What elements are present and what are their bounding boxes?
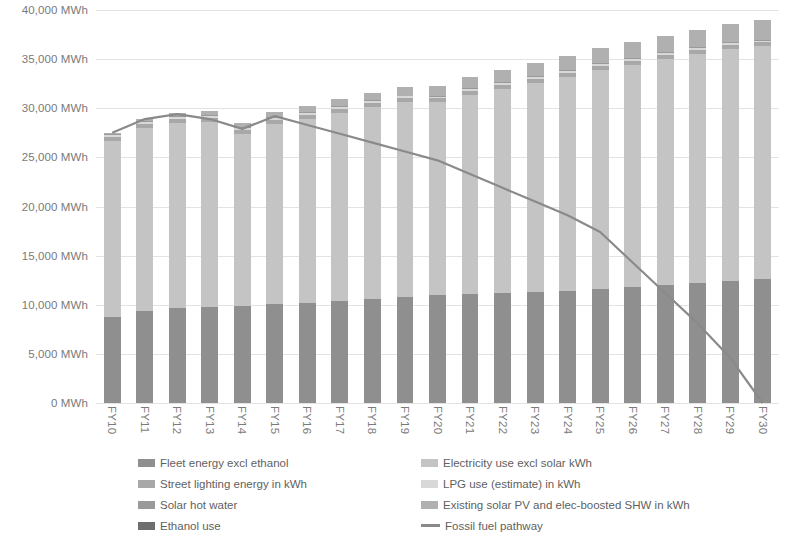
legend-item[interactable]: Fossil fuel pathway [421, 520, 738, 532]
x-axis-tick-label: FY28 [692, 406, 704, 434]
plot-area [96, 10, 779, 403]
x-axis-tick-label: FY24 [562, 406, 574, 434]
legend-line-marker [421, 524, 440, 527]
x-axis-tick-label: FY10 [106, 406, 118, 434]
x-axis-tick-label: FY16 [301, 406, 313, 434]
y-axis: 0 MWh5,000 MWh10,000 MWh15,000 MWh20,000… [0, 10, 88, 403]
legend-item[interactable]: Electricity use excl solar kWh [421, 457, 738, 469]
x-axis-tick-label: FY19 [399, 406, 411, 434]
x-axis-tick-label: FY20 [432, 406, 444, 434]
y-axis-tick-label: 30,000 MWh [22, 102, 88, 114]
fossil-fuel-pathway-line [96, 10, 779, 403]
legend-color-swatch [421, 480, 438, 488]
x-axis: FY10FY11FY12FY13FY14FY15FY16FY17FY18FY19… [96, 404, 779, 450]
legend-color-swatch [421, 459, 438, 467]
legend-color-swatch [421, 501, 438, 509]
stacked-bar-chart: 0 MWh5,000 MWh10,000 MWh15,000 MWh20,000… [0, 0, 785, 538]
x-axis-tick-label: FY18 [366, 406, 378, 434]
x-axis-tick-label: FY29 [724, 406, 736, 434]
legend-color-swatch [138, 480, 155, 488]
y-axis-tick-label: 25,000 MWh [22, 151, 88, 163]
y-axis-tick-label: 5,000 MWh [28, 348, 88, 360]
x-axis-tick-label: FY30 [757, 406, 769, 434]
x-axis-tick-label: FY25 [594, 406, 606, 434]
legend-color-swatch [138, 501, 155, 509]
legend-color-swatch [138, 459, 155, 467]
chart-legend: Fleet energy excl ethanolElectricity use… [138, 452, 738, 534]
x-axis-tick-label: FY14 [236, 406, 248, 434]
legend-item[interactable]: Solar hot water [138, 499, 421, 511]
legend-item[interactable]: LPG use (estimate) in kWh [421, 478, 738, 490]
legend-label: Existing solar PV and elec-boosted SHW i… [443, 499, 690, 511]
legend-item[interactable]: Fleet energy excl ethanol [138, 457, 421, 469]
y-axis-tick-label: 10,000 MWh [22, 299, 88, 311]
legend-item[interactable]: Ethanol use [138, 520, 421, 532]
y-axis-tick-label: 40,000 MWh [22, 4, 88, 16]
legend-label: Fleet energy excl ethanol [160, 457, 289, 469]
y-axis-tick-label: 0 MWh [51, 397, 88, 409]
fossil-fuel-pathway-polyline [112, 114, 762, 403]
x-axis-tick-label: FY27 [659, 406, 671, 434]
legend-label: Ethanol use [160, 520, 221, 532]
x-axis-tick-label: FY12 [171, 406, 183, 434]
legend-color-swatch [138, 522, 155, 530]
x-axis-tick-label: FY15 [269, 406, 281, 434]
legend-item[interactable]: Street lighting energy in kWh [138, 478, 421, 490]
legend-item[interactable]: Existing solar PV and elec-boosted SHW i… [421, 499, 738, 511]
x-axis-tick-label: FY21 [464, 406, 476, 434]
y-axis-tick-label: 15,000 MWh [22, 250, 88, 262]
x-axis-tick-label: FY26 [627, 406, 639, 434]
legend-label: Fossil fuel pathway [445, 520, 543, 532]
legend-label: Solar hot water [160, 499, 237, 511]
x-axis-tick-label: FY11 [139, 406, 151, 433]
legend-label: Electricity use excl solar kWh [443, 457, 592, 469]
x-axis-tick-label: FY17 [334, 406, 346, 434]
y-axis-tick-label: 35,000 MWh [22, 53, 88, 65]
y-axis-tick-label: 20,000 MWh [22, 201, 88, 213]
x-axis-tick-label: FY13 [204, 406, 216, 434]
x-axis-tick-label: FY23 [529, 406, 541, 434]
legend-label: Street lighting energy in kWh [160, 478, 307, 490]
legend-label: LPG use (estimate) in kWh [443, 478, 580, 490]
x-axis-tick-label: FY22 [497, 406, 509, 434]
